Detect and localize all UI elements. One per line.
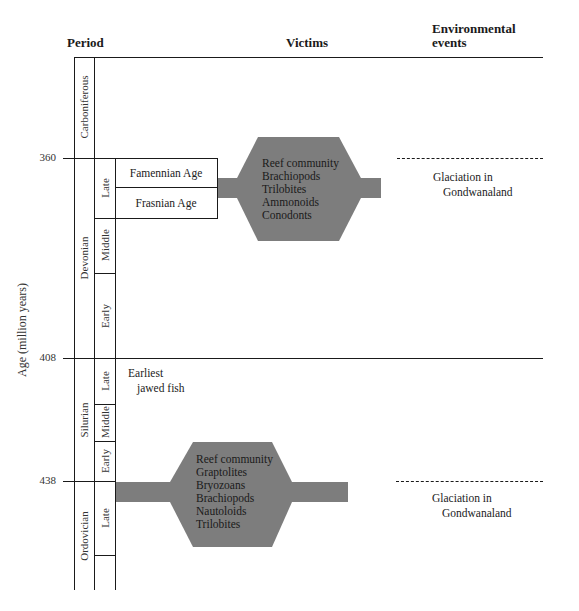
boundary-408-line — [63, 358, 543, 359]
victim-item: Nautoloids — [196, 505, 273, 518]
frasnian-age-box: Frasnian Age — [115, 187, 218, 219]
jawed-fish-note-line2: jawed fish — [137, 381, 185, 396]
period-column-right-line — [94, 57, 95, 590]
victim-item: Ammonoids — [262, 196, 339, 209]
ordovician-event-dashed-line — [396, 481, 543, 482]
period-ordovician: Ordovician — [78, 511, 90, 560]
devonian-late-middle-divider — [94, 218, 115, 219]
ordovician-event-line2: Gondwanaland — [442, 506, 512, 521]
tick-360: 360 — [26, 151, 56, 163]
y-axis-label: Age (million years) — [15, 283, 30, 377]
devonian-victims-list: Reef community Brachiopods Trilobites Am… — [262, 157, 339, 222]
epoch-devonian-middle: Middle — [99, 229, 111, 261]
victim-item: Graptolites — [196, 466, 273, 479]
victim-item: Brachiopods — [196, 492, 273, 505]
frasnian-age-label: Frasnian Age — [135, 197, 196, 209]
silurian-middle-early-divider — [94, 441, 115, 442]
victim-item: Conodonts — [262, 209, 339, 222]
silurian-late-middle-divider — [94, 404, 115, 405]
devonian-middle-early-divider — [94, 273, 115, 274]
victim-item: Trilobites — [196, 518, 273, 531]
epoch-devonian-late: Late — [99, 178, 111, 198]
ordovician-event-line1: Glaciation in — [432, 491, 492, 506]
epoch-silurian-early: Early — [99, 449, 111, 473]
tick-408: 408 — [26, 351, 56, 363]
ordovician-late-bottom-divider — [94, 555, 115, 556]
epoch-devonian-early: Early — [99, 304, 111, 328]
period-carboniferous: Carboniferous — [78, 76, 90, 139]
jawed-fish-note-line1: Earliest — [128, 366, 163, 381]
victim-item: Trilobites — [262, 183, 339, 196]
famennian-age-label: Famennian Age — [130, 167, 203, 179]
ordovician-victims-list: Reef community Graptolites Bryozoans Bra… — [196, 453, 273, 531]
period-devonian: Devonian — [78, 237, 90, 280]
epoch-ordovician-late: Late — [99, 508, 111, 528]
victim-item: Reef community — [196, 453, 273, 466]
victim-item: Brachiopods — [262, 170, 339, 183]
devonian-event-dashed-line — [397, 158, 543, 159]
victim-item: Reef community — [262, 157, 339, 170]
period-silurian: Silurian — [78, 403, 90, 438]
devonian-event-line1: Glaciation in — [433, 170, 493, 185]
period-column-left-line — [74, 57, 75, 590]
famennian-age-box: Famennian Age — [115, 158, 218, 188]
victim-item: Bryozoans — [196, 479, 273, 492]
boundary-438-line — [63, 481, 116, 482]
tick-438: 438 — [26, 474, 56, 486]
top-rule — [74, 57, 543, 58]
epoch-silurian-middle: Middle — [99, 406, 111, 438]
epoch-silurian-late: Late — [99, 371, 111, 391]
devonian-event-line2: Gondwanaland — [443, 185, 513, 200]
epoch-column-right-line — [115, 158, 116, 590]
